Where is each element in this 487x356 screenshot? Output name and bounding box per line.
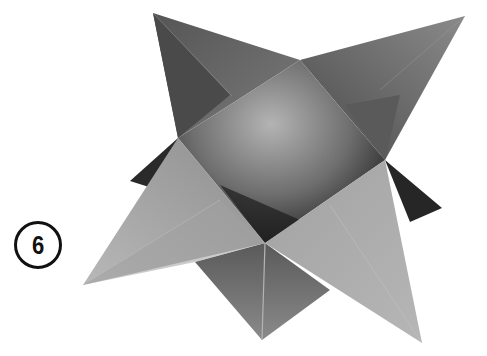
- step-number-badge: 6: [14, 221, 62, 269]
- figure: 6: [0, 0, 487, 356]
- step-number: 6: [32, 230, 44, 261]
- origami-star-box-photo: [0, 0, 487, 356]
